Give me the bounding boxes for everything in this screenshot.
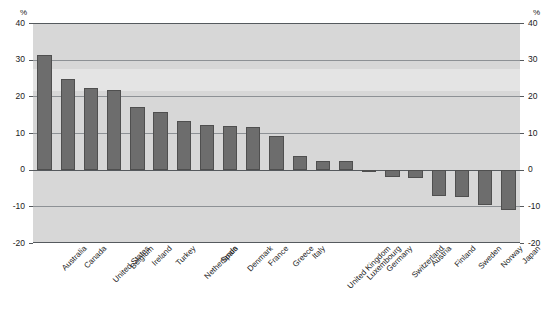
bar: [385, 170, 399, 177]
x-axis-label: Spain: [219, 244, 240, 265]
y-label-right-20: 20: [528, 92, 554, 101]
y-axis-unit-right: %: [533, 8, 540, 17]
bar: [130, 107, 144, 169]
x-axis-label: Ireland: [151, 244, 175, 268]
bar: [223, 126, 237, 169]
y-tick-left-10: [29, 133, 33, 134]
bar: [153, 112, 167, 170]
x-axis-label: Finland: [453, 244, 478, 269]
x-axis-label: Turkey: [174, 244, 197, 267]
bar: [455, 170, 469, 197]
y-label-right--10: -10: [528, 202, 554, 211]
y-label-right-0: 0: [528, 165, 554, 174]
x-axis-label: Australia: [60, 244, 88, 272]
y-tick-right--10: [520, 206, 524, 207]
plot-area: [33, 23, 520, 243]
y-tick-left-30: [29, 60, 33, 61]
y-tick-left-20: [29, 96, 33, 97]
y-tick-right--20: [520, 243, 524, 244]
y-label-left--10: -10: [0, 202, 25, 211]
y-tick-left--10: [29, 206, 33, 207]
bar: [362, 170, 376, 173]
y-label-left-30: 30: [0, 55, 25, 64]
bar: [316, 161, 330, 169]
y-label-left-40: 40: [0, 19, 25, 28]
y-tick-left-0: [29, 170, 33, 171]
bar: [269, 136, 283, 170]
bar: [84, 88, 98, 170]
x-axis-label: Norway: [499, 244, 525, 270]
x-axis-label: Greece: [290, 244, 315, 269]
bar: [501, 170, 515, 210]
bar-series: [33, 23, 520, 243]
y-label-left-0: 0: [0, 165, 25, 174]
y-tick-right-30: [520, 60, 524, 61]
y-label-left-10: 10: [0, 129, 25, 138]
y-tick-right-10: [520, 133, 524, 134]
y-label-right-40: 40: [528, 19, 554, 28]
bar: [339, 161, 353, 169]
bar: [293, 156, 307, 170]
y-axis-unit-left: %: [20, 8, 27, 17]
chart-title-fragment: [0, 0, 558, 7]
bar: [246, 127, 260, 170]
bar: [478, 170, 492, 206]
bar: [432, 170, 446, 197]
y-label-left--20: -20: [0, 239, 25, 248]
y-label-left-20: 20: [0, 92, 25, 101]
y-tick-right-40: [520, 23, 524, 24]
x-axis-label: Japan: [521, 244, 543, 266]
bar-chart: % % -20-10010203040 -20-10010203040 Aust…: [0, 0, 558, 330]
y-tick-left-40: [29, 23, 33, 24]
x-axis-labels: AustraliaCanadaUnited StatesBelgiumIrela…: [33, 244, 520, 330]
bar: [61, 79, 75, 170]
bar: [200, 125, 214, 169]
y-label-right-10: 10: [528, 129, 554, 138]
y-label-right-30: 30: [528, 55, 554, 64]
y-tick-right-20: [520, 96, 524, 97]
y-tick-right-0: [520, 170, 524, 171]
x-axis-label: Sweden: [476, 244, 503, 271]
bar: [408, 170, 422, 178]
bar: [107, 90, 121, 170]
bar: [37, 55, 51, 169]
bar: [177, 121, 191, 170]
